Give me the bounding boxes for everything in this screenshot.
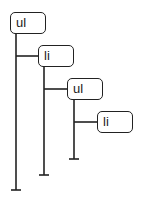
node-label: li: [103, 114, 109, 129]
tree-node-ul-nested: ul: [67, 78, 103, 100]
tree-node-li: li: [38, 45, 74, 67]
tree-node-li-nested: li: [97, 111, 133, 133]
node-label: ul: [16, 15, 26, 30]
node-label: ul: [73, 81, 83, 96]
node-label: li: [44, 48, 50, 63]
tree-node-ul-root: ul: [10, 12, 46, 34]
